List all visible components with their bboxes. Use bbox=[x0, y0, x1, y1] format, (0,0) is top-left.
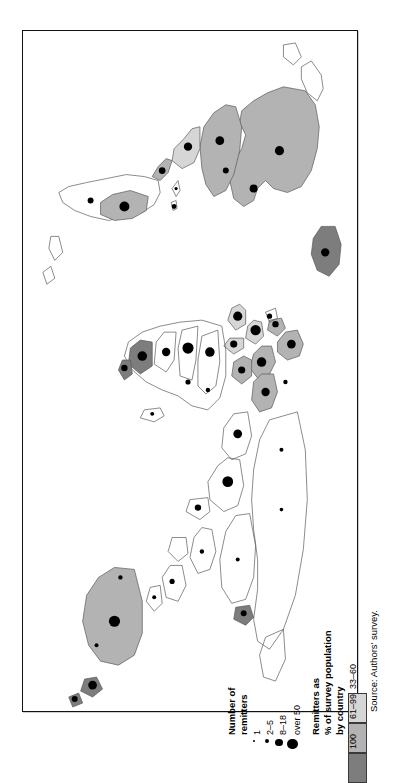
legend-class-label-1: 33–60 bbox=[349, 664, 358, 689]
legend-symbol-title-line1: Number of bbox=[227, 688, 238, 736]
legend-symbol-dot-3 bbox=[273, 734, 285, 746]
legend-class-label-2: 61–99 bbox=[349, 694, 358, 719]
legend-class-label-3: 100 bbox=[349, 734, 358, 749]
legend-symbol-dot-1 bbox=[250, 737, 258, 745]
legend-choropleth-title-line2: % of survey population bbox=[323, 630, 334, 735]
map-frame: .cl{fill:none;stroke:#5a5a5a;stroke-widt… bbox=[22, 30, 358, 712]
legend-symbol-label-1: 1 bbox=[253, 730, 262, 735]
legend-symbol-dot-4 bbox=[285, 733, 299, 747]
legend-choropleth-title-line3: by country bbox=[335, 686, 346, 735]
source-caption: Source: Authors' survey. bbox=[368, 610, 379, 712]
legend-choropleth-title-line1: Remitters as bbox=[311, 678, 322, 735]
legend-symbol-label-2: 2–5 bbox=[266, 720, 275, 735]
legend-class-swatch-3 bbox=[348, 753, 367, 783]
map-legend: Number of remitters 1 2–5 8–18 over 50 R… bbox=[219, 627, 369, 739]
map-canvas: .cl{fill:none;stroke:#5a5a5a;stroke-widt… bbox=[23, 31, 357, 711]
legend-symbol-label-4: over 50 bbox=[293, 705, 302, 735]
legend-symbol-title-line2: remitters bbox=[239, 694, 250, 735]
legend-symbol-dot-2 bbox=[262, 736, 272, 746]
world-map-svg: .cl{fill:none;stroke:#5a5a5a;stroke-widt… bbox=[23, 31, 357, 711]
legend-symbol-label-3: 8–18 bbox=[279, 715, 288, 735]
